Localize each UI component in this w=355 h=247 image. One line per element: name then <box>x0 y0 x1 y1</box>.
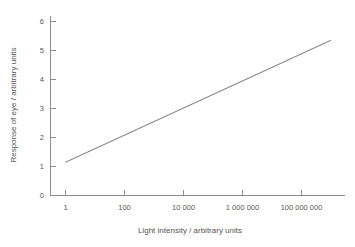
x-tick-label-10000: 10 000 <box>172 203 195 212</box>
chart-figure: 0 1 2 3 4 5 6 1 100 10 000 1 000 000 100… <box>0 0 355 247</box>
y-tick-label-4: 4 <box>40 75 44 84</box>
data-line-response-of-eye <box>66 40 332 162</box>
y-tick-label-0: 0 <box>40 191 44 200</box>
y-tick-label-3: 3 <box>40 104 44 113</box>
chart-plot-area: 0 1 2 3 4 5 6 1 100 10 000 1 000 000 100… <box>0 0 355 247</box>
data-series-group <box>66 40 332 162</box>
x-axis-ticks <box>66 190 302 196</box>
y-tick-label-5: 5 <box>40 46 44 55</box>
x-tick-label-1000000: 1 000 000 <box>226 203 259 212</box>
y-axis-ticks <box>51 22 57 196</box>
x-tick-label-100000000: 100 000 000 <box>281 203 323 212</box>
y-tick-label-1: 1 <box>40 162 44 171</box>
x-tick-label-100: 100 <box>118 203 131 212</box>
y-tick-label-6: 6 <box>40 17 44 26</box>
x-axis-tick-labels: 1 100 10 000 1 000 000 100 000 000 <box>63 203 322 212</box>
y-axis-title: Response of eye / arbitrary units <box>9 47 18 162</box>
y-axis-tick-labels: 0 1 2 3 4 5 6 <box>40 17 44 200</box>
y-tick-label-2: 2 <box>40 133 44 142</box>
x-axis-title: Light intensity / arbitrary units <box>138 226 242 235</box>
x-tick-label-1: 1 <box>63 203 67 212</box>
